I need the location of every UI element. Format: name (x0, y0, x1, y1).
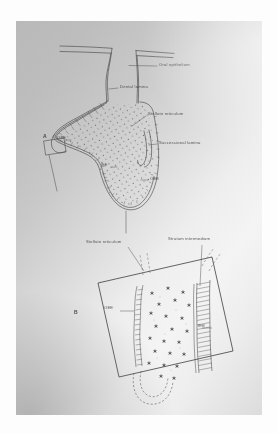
label-oee-b: OEE (104, 305, 113, 310)
label-successional-lamina: Successional lamina (159, 140, 201, 145)
label-panel-b: B (74, 309, 78, 315)
label-iee-upper: IEE (101, 163, 107, 167)
label-oee-upper: OEE (57, 135, 66, 140)
label-oee-lower: OEE (150, 176, 159, 181)
label-dental-lamina: Dental lamina (120, 84, 148, 89)
label-stratum-intermedium: Stratum intermedium (168, 236, 210, 241)
panel-a-drawing (16, 21, 262, 415)
label-stellate-reticulum-b: Stellate reticulum (86, 239, 121, 244)
label-panel-a: A (43, 133, 47, 139)
label-stellate-reticulum: Stellate reticulum (148, 111, 183, 116)
figure-page: Oral epithelium Dental lamina Stellate r… (0, 0, 278, 433)
scanned-sheet: Oral epithelium Dental lamina Stellate r… (16, 21, 262, 415)
label-oral-epithelium: Oral epithelium (159, 62, 190, 67)
label-iee-b: IEE (198, 323, 205, 328)
